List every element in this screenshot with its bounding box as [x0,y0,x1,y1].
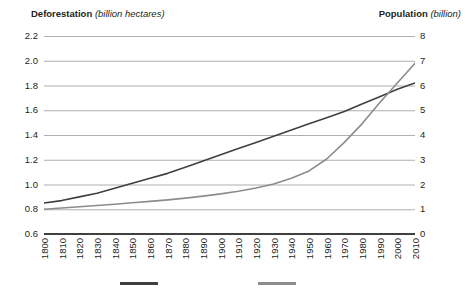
x-axis-tick-label: 1860 [145,238,156,259]
right-axis-title: Population (billion) [379,8,461,19]
right-axis-tick-label: 5 [420,104,450,115]
left-axis-tick-label: 1.0 [8,179,38,190]
x-axis-tick-label: 1970 [339,238,350,259]
x-axis-line [44,233,415,235]
x-axis-tick-label: 1960 [322,238,333,259]
right-axis-tick-label: 0 [420,228,450,239]
left-axis-title-unit: (billion hectares) [95,8,165,19]
left-axis-tick-label: 2.2 [8,30,38,41]
left-axis-tick-label: 0.8 [8,203,38,214]
right-axis-title-bold: Population [379,8,428,19]
right-axis-tick-label: 4 [420,129,450,140]
right-axis-title-unit: (billion) [430,8,461,19]
series-line-population [44,63,415,209]
gridlines [44,37,415,235]
x-axis-tick-label: 1820 [74,238,85,259]
x-axis-tick-label: 1930 [269,238,280,259]
x-axis-tick-label: 1910 [233,238,244,259]
x-axis-tick-label: 1880 [180,238,191,259]
x-axis-tick-label: 1810 [57,238,68,259]
right-axis-tick-label: 6 [420,80,450,91]
legend-swatch-population[interactable] [258,282,296,285]
chart-legend [0,278,465,292]
x-axis-tick-label: 1980 [357,238,368,259]
x-axis-tick-label: 1950 [304,238,315,259]
x-axis-tick-label: 1940 [286,238,297,259]
x-axis-tick-label: 1920 [251,238,262,259]
left-axis-title: Deforestation (billion hectares) [31,8,165,19]
x-axis-tick-label: 2000 [392,238,403,259]
x-axis-tick-label: 2010 [410,238,421,259]
plot-area [44,36,415,234]
right-axis-tick-label: 8 [420,30,450,41]
right-axis-tick-label: 3 [420,154,450,165]
plot-svg [44,36,415,234]
x-axis-tick-label: 1800 [39,238,50,259]
left-axis-tick-label: 1.6 [8,104,38,115]
left-axis-tick-label: 1.4 [8,129,38,140]
left-axis-tick-label: 2.0 [8,55,38,66]
x-axis-tick-label: 1830 [92,238,103,259]
left-axis-tick-label: 1.2 [8,154,38,165]
left-axis-tick-label: 0.6 [8,228,38,239]
legend-swatch-deforestation[interactable] [120,282,158,285]
right-axis-tick-label: 2 [420,179,450,190]
right-axis-tick-label: 1 [420,203,450,214]
deforestation-population-chart: Deforestation (billion hectares) Populat… [0,0,465,295]
x-axis-tick-label: 1900 [216,238,227,259]
x-axis-tick-label: 1840 [110,238,121,259]
x-axis-tick-label: 1870 [163,238,174,259]
right-axis-tick-label: 7 [420,55,450,66]
left-axis-tick-label: 1.8 [8,80,38,91]
left-axis-title-bold: Deforestation [31,8,92,19]
x-axis-tick-label: 1990 [375,238,386,259]
x-axis-tick-label: 1850 [127,238,138,259]
x-axis-tick-label: 1890 [198,238,209,259]
